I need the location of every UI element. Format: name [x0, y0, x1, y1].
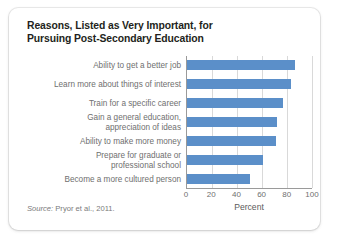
x-tick-label: 20 — [207, 190, 216, 199]
category-label: Ability to make more money — [18, 132, 186, 151]
title-line-1: Reasons, Listed as Very Important, for — [27, 19, 277, 32]
source-label: Source: — [27, 204, 53, 213]
bar-row — [187, 169, 312, 188]
bar-row — [187, 94, 312, 113]
source-note: Source: Pryor et al., 2011. — [27, 204, 115, 213]
x-tick-label: 60 — [257, 190, 266, 199]
category-label: Gain a general education, appreciation o… — [18, 113, 186, 132]
x-tick-label: 40 — [232, 190, 241, 199]
bar — [187, 60, 295, 70]
chart-plot-area: Ability to get a better jobLearn more ab… — [18, 56, 314, 196]
page-title: Reasons, Listed as Very Important, for P… — [27, 19, 277, 45]
category-label: Learn more about things of interest — [18, 75, 186, 94]
x-axis-title: Percent — [186, 202, 312, 212]
bar — [187, 117, 277, 127]
bar — [187, 98, 283, 108]
bar-row — [187, 56, 312, 75]
bar — [187, 136, 276, 146]
x-tick-label: 80 — [282, 190, 291, 199]
bar — [187, 79, 291, 89]
category-label: Prepare for graduate or professional sch… — [18, 151, 186, 170]
x-tick-label: 100 — [305, 190, 318, 199]
bar-row — [187, 113, 312, 132]
title-line-2: Pursuing Post-Secondary Education — [27, 32, 277, 45]
gridline — [312, 56, 313, 188]
bar-row — [187, 131, 312, 150]
source-citation: Pryor et al., 2011. — [53, 204, 114, 213]
bar-row — [187, 150, 312, 169]
bar — [187, 155, 263, 165]
category-label: Ability to get a better job — [18, 56, 186, 75]
category-label: Train for a specific career — [18, 94, 186, 113]
x-tick-label: 0 — [184, 190, 188, 199]
bar — [187, 174, 250, 184]
x-axis-tick-labels: 020406080100 — [186, 190, 312, 202]
bar-series — [187, 56, 312, 188]
plot-frame — [186, 56, 312, 189]
figure-card: Reasons, Listed as Very Important, for P… — [9, 8, 320, 230]
category-label: Become a more cultured person — [18, 170, 186, 189]
bar-row — [187, 75, 312, 94]
category-axis-labels: Ability to get a better jobLearn more ab… — [18, 56, 186, 189]
